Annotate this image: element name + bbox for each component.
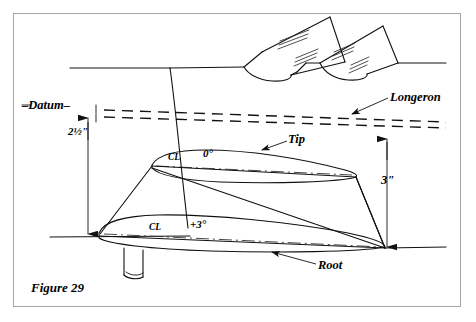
datum-lines	[96, 105, 446, 128]
strut-tube	[124, 248, 143, 279]
figure-29-diagram: –Datum– 2½" Longeron Tip Root 3" CL 0° C…	[0, 0, 476, 322]
tip-leader	[262, 141, 287, 150]
longeron-leader	[352, 98, 388, 114]
bulkhead-curve	[170, 68, 188, 228]
tip-centerline-label: CL	[168, 153, 180, 163]
fairing-hatching	[278, 30, 369, 73]
longeron-label: Longeron	[390, 91, 441, 104]
root-incidence-angle-label: +3°	[190, 219, 206, 230]
figure-caption: Figure 29	[31, 281, 84, 294]
root-label: Root	[318, 259, 342, 272]
datum-label: –Datum–	[22, 99, 70, 112]
root-centerline-label: CL	[149, 223, 161, 233]
fuselage-top-outline	[70, 17, 446, 81]
root-chord-centerline	[104, 234, 382, 247]
tip-label: Tip	[288, 133, 305, 146]
datum-line-lower	[104, 117, 446, 128]
wing-taper-lines	[99, 166, 385, 248]
left-dimension-label: 2½"	[68, 126, 88, 137]
tip-incidence-angle-label: 0°	[203, 148, 213, 159]
right-dimension-label: 3"	[381, 174, 394, 187]
datum-line-upper	[104, 110, 446, 122]
root-leader	[272, 252, 316, 264]
diagram-canvas	[0, 0, 476, 322]
